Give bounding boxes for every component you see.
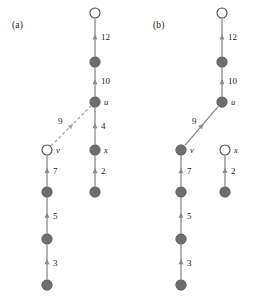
- a-edge-2: [93, 156, 98, 186]
- node-a-n2: [90, 57, 100, 67]
- node-a-v1: [42, 187, 52, 197]
- node-label-a-u: u: [104, 97, 108, 107]
- a-edge-4-weight: 4: [101, 121, 106, 131]
- b-edge-12: [220, 19, 225, 56]
- node-a-v3: [42, 280, 52, 290]
- a-edge-3: [45, 245, 50, 279]
- node-label-a-x: x: [104, 145, 108, 155]
- a-edge-9: [51, 106, 91, 146]
- b-edge-10-arrowhead-icon: [220, 79, 225, 84]
- b-edge-2-weight: 2: [231, 166, 236, 176]
- b-edge-2-arrowhead-icon: [223, 168, 228, 173]
- a-edge-7: [45, 156, 50, 186]
- a-edge-9-arrowhead-icon: [68, 122, 75, 129]
- node-label-b-u: u: [231, 97, 235, 107]
- a-edge-12: [93, 19, 98, 56]
- node-a-u: [90, 97, 100, 107]
- b-edge-3-weight: 3: [187, 258, 192, 268]
- a-edge-2-weight: 2: [101, 166, 106, 176]
- b-edge-10: [220, 68, 225, 96]
- a-edge-12-arrowhead-icon: [93, 34, 98, 39]
- panel-label-a: (a): [12, 20, 23, 30]
- b-edge-12-weight: 12: [228, 32, 237, 42]
- a-edge-3-weight: 3: [53, 258, 58, 268]
- b-edge-7-arrowhead-icon: [179, 168, 184, 173]
- node-b-n2: [217, 57, 227, 67]
- b-edge-5: [179, 198, 184, 233]
- a-edge-5: [45, 198, 50, 233]
- a-edge-4-arrowhead-icon: [93, 123, 98, 128]
- b-edge-3: [179, 245, 184, 279]
- b-edge-10-weight: 10: [228, 76, 237, 86]
- node-b-u: [217, 97, 227, 107]
- b-edge-5-arrowhead-icon: [179, 212, 184, 217]
- b-edge-9-weight: 9: [192, 116, 197, 126]
- a-edge-10: [93, 68, 98, 96]
- a-edge-3-arrowhead-icon: [45, 259, 50, 264]
- node-b-v1: [176, 187, 186, 197]
- node-b-v2: [176, 234, 186, 244]
- panel-label-b: (b): [153, 20, 165, 30]
- node-a-x: [90, 145, 100, 155]
- a-edge-5-arrowhead-icon: [45, 212, 50, 217]
- a-edge-7-weight: 7: [53, 166, 58, 176]
- a-edge-9-weight: 9: [58, 116, 63, 126]
- node-a-v2: [42, 234, 52, 244]
- a-edge-2-arrowhead-icon: [93, 168, 98, 173]
- node-b-v: [176, 145, 186, 155]
- node-b-v3: [176, 280, 186, 290]
- node-b-xchild: [220, 187, 230, 197]
- node-a-v: [42, 145, 52, 155]
- b-edge-7: [179, 156, 184, 186]
- graph-svg: [0, 0, 253, 301]
- node-b-x: [220, 145, 230, 155]
- node-label-a-v: v: [56, 145, 60, 155]
- a-edge-12-weight: 12: [101, 32, 110, 42]
- node-b-root: [217, 8, 227, 18]
- b-edge-7-weight: 7: [187, 166, 192, 176]
- b-edge-12-arrowhead-icon: [220, 34, 225, 39]
- a-edge-4: [93, 108, 98, 144]
- node-a-root: [90, 8, 100, 18]
- a-edge-10-weight: 10: [101, 76, 110, 86]
- figure-canvas: 1210429753uxv(a)121029753uxv(b): [0, 0, 253, 301]
- a-edge-10-arrowhead-icon: [93, 79, 98, 84]
- a-edge-7-arrowhead-icon: [45, 168, 50, 173]
- a-edge-5-weight: 5: [53, 211, 58, 221]
- b-edge-5-weight: 5: [187, 211, 192, 221]
- node-label-b-v: v: [190, 145, 194, 155]
- b-edge-2: [223, 156, 228, 186]
- b-edge-3-arrowhead-icon: [179, 259, 184, 264]
- node-label-b-x: x: [234, 145, 238, 155]
- b-edge-9: [185, 107, 218, 146]
- node-a-xchild: [90, 187, 100, 197]
